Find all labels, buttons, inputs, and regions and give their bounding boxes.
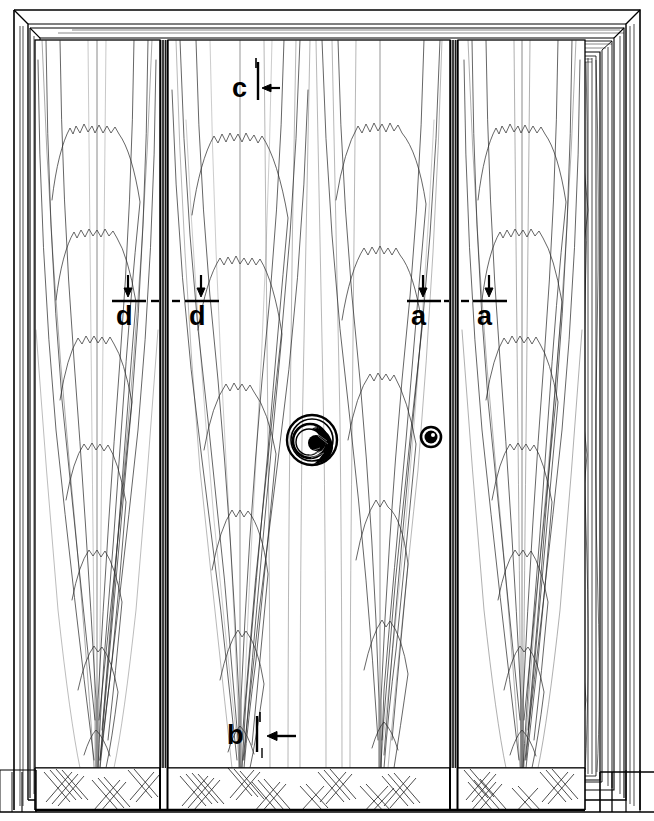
annotation-label-d-left: d	[116, 303, 132, 330]
annotation-label-b: b	[227, 722, 243, 749]
annotation-label-a-right: a	[477, 303, 492, 330]
stile-right	[450, 40, 458, 768]
annotation-label-c: c	[232, 75, 247, 102]
hatched-base-rail	[35, 768, 585, 816]
stile-left	[160, 40, 168, 768]
annotation-label-a-left: a	[411, 303, 426, 330]
door-leaves-structure	[35, 40, 585, 768]
door-elevation-drawing: c d d a a b	[0, 0, 654, 821]
annotation-label-d-right: d	[189, 303, 205, 330]
line-drawing-canvas	[0, 0, 654, 821]
